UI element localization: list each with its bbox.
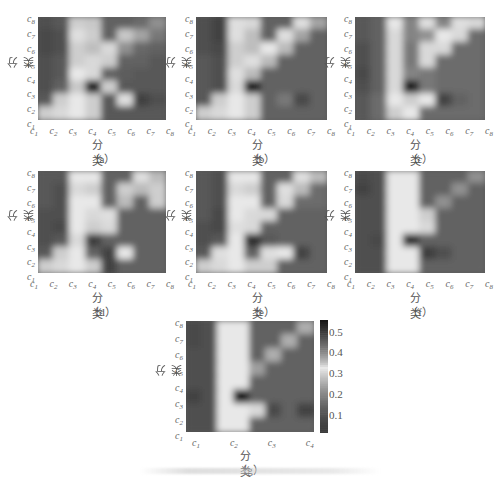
y-tick-label: c2 <box>19 257 35 270</box>
heatmap-cell <box>244 55 262 70</box>
heatmap-cell <box>403 183 421 198</box>
heatmap-cell <box>293 234 311 249</box>
heatmap-cell <box>233 403 251 419</box>
heatmap-cell <box>101 93 119 108</box>
colorbar-tick-label: 0.5 <box>329 326 343 338</box>
heatmap-cell <box>186 389 203 405</box>
heatmap-cell <box>217 362 235 378</box>
heatmap-cell <box>149 247 166 262</box>
heatmap-cell <box>53 42 71 57</box>
heatmap-cell <box>69 247 87 262</box>
heatmap-cell <box>69 42 87 57</box>
y-tick-label: c7 <box>177 29 193 42</box>
heatmap-cell <box>211 93 229 108</box>
heatmap-cell <box>468 106 485 120</box>
y-tick-label: c2 <box>19 104 35 117</box>
x-tick-label: c2 <box>208 126 216 139</box>
heatmap-cell <box>69 196 87 211</box>
heatmap-cell <box>293 259 311 273</box>
heatmap-cell <box>468 196 485 211</box>
heatmap-cell <box>101 234 119 249</box>
x-tick-label: c7 <box>465 279 473 292</box>
y-tick-label: c7 <box>336 183 352 196</box>
heatmap-cell <box>435 17 453 31</box>
heatmap-cell <box>69 221 87 236</box>
heatmap-cell <box>403 196 421 211</box>
heatmap-cell <box>452 208 470 223</box>
heatmap-cell <box>196 29 213 44</box>
heatmap-cell <box>370 221 388 236</box>
heatmap-cell <box>211 68 229 83</box>
heatmap-cell <box>186 376 203 392</box>
y-tick-label: c3 <box>177 242 193 255</box>
heatmap-cell <box>355 93 372 108</box>
heatmap-cell <box>85 42 103 57</box>
heatmap-cell <box>117 259 135 273</box>
x-tick-label: c3 <box>386 126 394 139</box>
heatmap-cell <box>211 171 229 185</box>
x-tick-label: c1 <box>188 279 196 292</box>
heatmap-cell <box>133 171 151 185</box>
heatmap-cell <box>69 171 87 185</box>
heatmap-cell <box>355 80 372 95</box>
heatmap-cell <box>117 68 135 83</box>
heatmap-cell <box>117 106 135 120</box>
heatmap-cell <box>452 42 470 57</box>
heatmap-cell <box>355 68 372 83</box>
heatmap-cell <box>277 208 295 223</box>
y-tick-label: c6 <box>19 44 35 57</box>
heatmap-cell <box>38 183 55 198</box>
heatmap-cell <box>297 389 314 405</box>
heatmap-cell <box>53 93 71 108</box>
heatmap-cell <box>53 106 71 120</box>
heatmap-cell <box>196 93 213 108</box>
heatmap-svg <box>196 17 327 120</box>
x-tick-label: c2 <box>367 126 375 139</box>
heatmap-cell <box>370 171 388 185</box>
heatmap-cell <box>370 29 388 44</box>
y-tick-label: c1 <box>167 431 183 444</box>
heatmap-cell <box>277 183 295 198</box>
heatmap-cell <box>452 183 470 198</box>
heatmap-cell <box>196 68 213 83</box>
heatmap-cell <box>228 234 246 249</box>
heatmap-cell <box>403 80 421 95</box>
heatmap-cell <box>228 247 246 262</box>
heatmap-cell <box>38 80 55 95</box>
y-tick-label: c2 <box>177 104 193 117</box>
heatmap-cell <box>53 247 71 262</box>
heatmap-cell <box>38 42 55 57</box>
heatmap-cell <box>310 196 327 211</box>
heatmap-cell <box>244 171 262 185</box>
x-tick-label: c2 <box>208 279 216 292</box>
heatmap-cell <box>403 106 421 120</box>
heatmap-cell <box>293 42 311 57</box>
heatmap-cell <box>435 55 453 70</box>
heatmap-cell <box>419 80 437 95</box>
heatmap-cell <box>277 247 295 262</box>
y-tick-label: c3 <box>19 242 35 255</box>
x-tick-label: c8 <box>166 126 174 139</box>
heatmap-cell <box>228 171 246 185</box>
heatmap-cell <box>249 403 267 419</box>
heatmap-cell <box>435 221 453 236</box>
heatmap-cell <box>211 42 229 57</box>
heatmap-cell <box>201 417 219 432</box>
heatmap-cell <box>281 389 299 405</box>
y-tick-label: c4 <box>19 227 35 240</box>
heatmap-cell <box>355 196 372 211</box>
heatmap-cell <box>452 93 470 108</box>
heatmap-cell <box>403 68 421 83</box>
heatmap-cell <box>468 208 485 223</box>
heatmap-cell <box>419 234 437 249</box>
heatmap-cell <box>370 68 388 83</box>
heatmap-cell <box>468 234 485 249</box>
heatmap-svg <box>38 171 166 273</box>
heatmap-cell <box>355 42 372 57</box>
heatmap-cell <box>217 376 235 392</box>
heatmap-cell <box>277 93 295 108</box>
heatmap-cell <box>310 17 327 31</box>
colorbar-tick-label: 0.3 <box>329 367 343 379</box>
heatmap-cell <box>53 196 71 211</box>
heatmap-cell <box>149 221 166 236</box>
